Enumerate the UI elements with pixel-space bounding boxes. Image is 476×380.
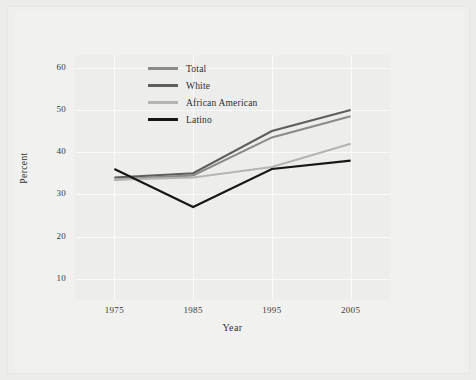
series-line-african-american bbox=[114, 144, 350, 180]
chart-legend: TotalWhiteAfrican AmericanLatino bbox=[148, 60, 288, 128]
legend-item-white: White bbox=[148, 77, 288, 94]
legend-item-african-american: African American bbox=[148, 94, 288, 111]
legend-swatch-icon bbox=[148, 101, 178, 104]
line-chart: 102030405060 1975198519952005 Percent Ye… bbox=[0, 0, 476, 380]
legend-label: Latino bbox=[186, 115, 212, 125]
legend-label: White bbox=[186, 81, 210, 91]
legend-swatch-icon bbox=[148, 67, 178, 70]
legend-item-total: Total bbox=[148, 60, 288, 77]
legend-swatch-icon bbox=[148, 84, 178, 87]
legend-swatch-icon bbox=[148, 118, 178, 121]
series-line-latino bbox=[114, 161, 350, 207]
page-background: 102030405060 1975198519952005 Percent Ye… bbox=[0, 0, 476, 380]
legend-item-latino: Latino bbox=[148, 111, 288, 128]
legend-label: African American bbox=[186, 98, 258, 108]
series-lines bbox=[0, 0, 476, 380]
legend-label: Total bbox=[186, 64, 206, 74]
